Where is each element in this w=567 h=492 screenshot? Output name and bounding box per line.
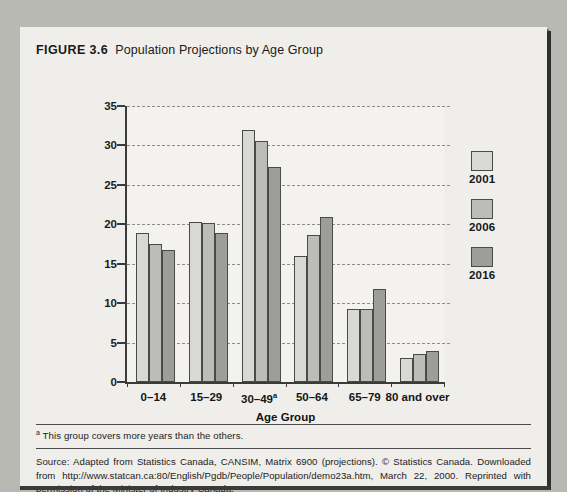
gridline bbox=[127, 145, 450, 146]
y-axis-tick-mark bbox=[117, 144, 125, 146]
bar-group bbox=[294, 217, 333, 382]
bar-2006 bbox=[413, 354, 426, 382]
bar-2006 bbox=[360, 309, 373, 382]
bar-2001 bbox=[189, 222, 202, 382]
divider-bottom bbox=[36, 448, 531, 449]
bar-group bbox=[136, 233, 175, 382]
gridline bbox=[127, 264, 450, 265]
x-axis-tick-label: 15–29 bbox=[190, 391, 222, 403]
y-axis-tick-mark bbox=[117, 184, 125, 186]
legend-swatch bbox=[471, 247, 493, 267]
bar-group bbox=[189, 222, 228, 382]
x-axis-tick-mark bbox=[444, 382, 445, 387]
legend-item-2006[interactable]: 2006 bbox=[469, 199, 529, 233]
x-axis-tick-mark bbox=[391, 382, 392, 387]
x-axis-tick-mark bbox=[233, 382, 234, 387]
gridline bbox=[127, 106, 450, 107]
x-axis-tick-mark bbox=[180, 382, 181, 387]
x-axis-title: Age Group bbox=[127, 411, 444, 423]
y-axis-tick-mark bbox=[117, 302, 125, 304]
gridline bbox=[127, 303, 450, 304]
bar-group bbox=[242, 130, 281, 382]
x-axis-tick-mark bbox=[286, 382, 287, 387]
x-axis-tick-label: 50–64 bbox=[296, 391, 328, 403]
divider-top bbox=[36, 424, 531, 425]
legend-item-2001[interactable]: 2001 bbox=[469, 151, 529, 185]
bar-2006 bbox=[149, 244, 162, 382]
x-axis-tick-label: 80 and over bbox=[386, 391, 450, 403]
x-axis-tick-label: 65–79 bbox=[349, 391, 381, 403]
bar-2001 bbox=[400, 358, 413, 382]
legend-label: 2001 bbox=[469, 173, 529, 185]
y-axis-tick-mark bbox=[117, 381, 125, 383]
bar-2016 bbox=[215, 233, 228, 382]
bar-2001 bbox=[242, 130, 255, 382]
footnote-marker: a bbox=[36, 429, 40, 436]
y-axis-tick-label: 10 bbox=[104, 297, 117, 309]
legend-swatch bbox=[471, 151, 493, 171]
bar-2016 bbox=[162, 250, 175, 382]
gridline bbox=[127, 343, 450, 344]
bar-2016 bbox=[373, 289, 386, 382]
y-axis-tick-mark bbox=[117, 223, 125, 225]
x-label-footnote-marker: a bbox=[273, 391, 277, 400]
footnote: a This group covers more years than the … bbox=[36, 429, 531, 441]
bar-2006 bbox=[202, 223, 215, 382]
footnote-text: This group covers more years than the ot… bbox=[43, 430, 244, 441]
y-axis-tick-label: 30 bbox=[104, 139, 117, 151]
y-axis-tick-label: 35 bbox=[104, 100, 117, 112]
y-axis-tick-label: 15 bbox=[104, 258, 117, 270]
legend-label: 2006 bbox=[469, 221, 529, 233]
bar-2016 bbox=[268, 167, 281, 382]
page-title: FIGURE 3.6 Population Projections by Age… bbox=[36, 43, 323, 57]
plot-area: 0–1415–2930–49a50–6465–7980 and over Age… bbox=[125, 106, 444, 384]
bar-2006 bbox=[307, 235, 320, 382]
gridline bbox=[127, 224, 450, 225]
x-axis-tick-label: 0–14 bbox=[141, 391, 167, 403]
figure-number: FIGURE 3.6 bbox=[36, 43, 108, 57]
y-axis-tick-mark bbox=[117, 342, 125, 344]
bar-2001 bbox=[294, 256, 307, 382]
figure-card: FIGURE 3.6 Population Projections by Age… bbox=[20, 27, 547, 486]
y-axis-tick-mark bbox=[117, 105, 125, 107]
y-axis-tick-mark bbox=[117, 263, 125, 265]
y-axis-tick-label: 25 bbox=[104, 179, 117, 191]
bar-2006 bbox=[255, 141, 268, 382]
source-note: Source: Adapted from Statistics Canada, … bbox=[36, 455, 531, 492]
bar-group bbox=[347, 289, 386, 382]
legend-item-2016[interactable]: 2016 bbox=[469, 247, 529, 281]
figure-title-text: Population Projections by Age Group bbox=[115, 43, 323, 57]
bar-2016 bbox=[320, 217, 333, 382]
bar-2016 bbox=[426, 351, 439, 382]
x-axis-tick-mark bbox=[338, 382, 339, 387]
bar-2001 bbox=[347, 309, 360, 382]
bar-2001 bbox=[136, 233, 149, 382]
y-axis-tick-label: 20 bbox=[104, 218, 117, 230]
legend-label: 2016 bbox=[469, 269, 529, 281]
x-axis-tick-mark bbox=[127, 382, 128, 387]
legend: 200120062016 bbox=[469, 151, 529, 295]
bar-group bbox=[400, 351, 439, 382]
y-axis-ticks: 05101520253035 bbox=[20, 106, 125, 382]
gridline bbox=[127, 185, 450, 186]
x-axis-tick-label: 30–49a bbox=[241, 391, 277, 405]
legend-swatch bbox=[471, 199, 493, 219]
